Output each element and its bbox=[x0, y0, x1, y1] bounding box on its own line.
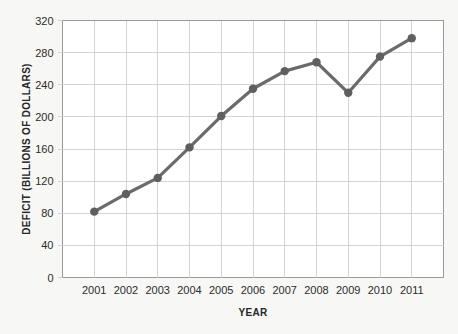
x-tick-label: 2004 bbox=[177, 284, 201, 296]
data-point bbox=[376, 52, 384, 60]
x-tick-label: 2008 bbox=[304, 284, 328, 296]
y-tick-label: 160 bbox=[35, 143, 53, 155]
x-tick-label: 2009 bbox=[336, 284, 360, 296]
y-tick-label: 280 bbox=[35, 47, 53, 59]
x-tick-label: 2011 bbox=[400, 284, 424, 296]
data-point bbox=[408, 34, 416, 42]
data-point bbox=[281, 67, 289, 75]
data-point bbox=[154, 174, 162, 182]
data-point bbox=[217, 112, 225, 120]
y-axis-title: DEFICIT (BILLIONS OF DOLLARS) bbox=[21, 63, 32, 234]
data-point bbox=[185, 143, 193, 151]
deficit-line-chart: 04080120160200240280320 2001200220032004… bbox=[0, 0, 458, 334]
x-tick-label: 2007 bbox=[273, 284, 297, 296]
data-point bbox=[312, 58, 320, 66]
chart-canvas: 04080120160200240280320 2001200220032004… bbox=[0, 0, 458, 334]
x-tick-label: 2001 bbox=[82, 284, 106, 296]
x-tick-label: 2005 bbox=[209, 284, 233, 296]
x-tick-label: 2003 bbox=[146, 284, 170, 296]
data-point bbox=[249, 85, 257, 93]
y-tick-label: 80 bbox=[41, 207, 53, 219]
y-tick-label: 0 bbox=[47, 272, 53, 284]
x-axis-title: YEAR bbox=[239, 307, 268, 318]
data-point bbox=[122, 190, 130, 198]
y-tick-label: 240 bbox=[35, 79, 53, 91]
y-tick-label: 320 bbox=[35, 15, 53, 27]
x-axis-tick-labels: 2001200220032004200520062007200820092010… bbox=[82, 284, 424, 296]
data-point bbox=[90, 207, 98, 215]
y-tick-label: 200 bbox=[35, 111, 53, 123]
x-tick-label: 2006 bbox=[241, 284, 265, 296]
y-tick-label: 120 bbox=[35, 175, 53, 187]
y-tick-label: 40 bbox=[41, 239, 53, 251]
x-tick-label: 2010 bbox=[368, 284, 392, 296]
x-tick-label: 2002 bbox=[114, 284, 138, 296]
data-point bbox=[344, 89, 352, 97]
